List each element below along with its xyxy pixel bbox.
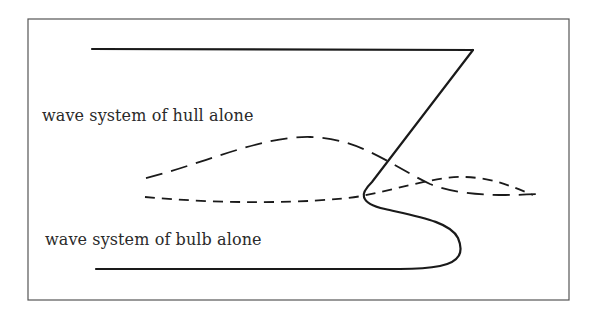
hull-wave-curve: [146, 137, 540, 195]
deck-line: [92, 49, 473, 50]
diagram-frame: [28, 19, 569, 300]
stem-line: [364, 50, 473, 197]
hull-wave-label: wave system of hull alone: [42, 106, 254, 125]
bulb-wave-curve: [145, 177, 533, 202]
bulb-wave-label: wave system of bulb alone: [45, 230, 262, 249]
diagram-canvas: [0, 0, 594, 321]
